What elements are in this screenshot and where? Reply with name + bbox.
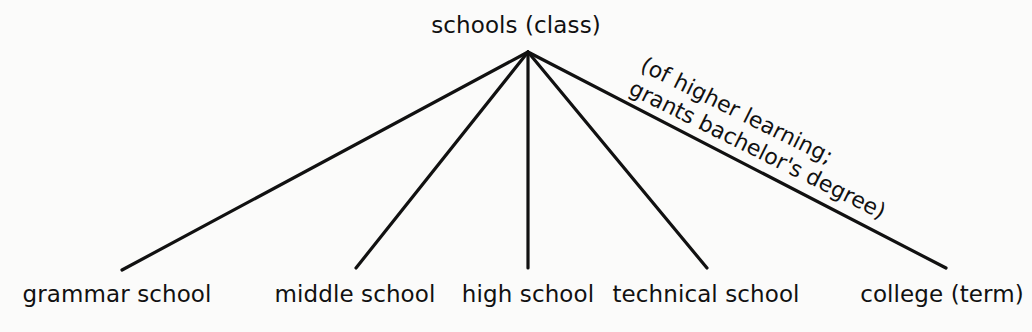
tree-edge [122,52,528,270]
leaf-node-label: technical school [612,281,799,307]
root-node-label: schools (class) [431,12,601,38]
leaf-node-label: college (term) [860,281,1024,307]
tree-edge [528,52,946,268]
tree-diagram: schools (class) (of higher learning; gra… [0,0,1032,332]
leaf-node-label: high school [462,281,594,307]
leaf-node-label: grammar school [23,281,212,307]
tree-edge [356,52,528,268]
leaf-node-label: middle school [275,281,436,307]
